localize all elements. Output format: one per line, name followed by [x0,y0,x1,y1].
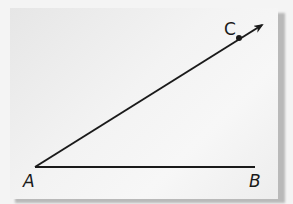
label-c: C [224,21,236,38]
label-a: A [23,173,35,190]
point-c-dot [236,35,242,41]
ray-ac [35,25,262,167]
label-b: B [249,173,261,190]
